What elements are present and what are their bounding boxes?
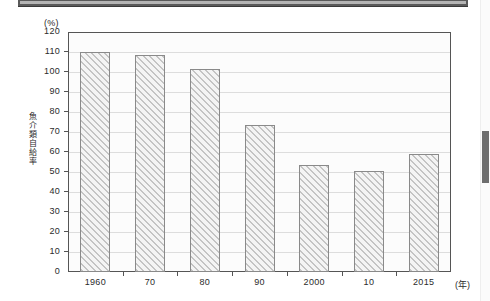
x-axis-tick-label: 1960	[68, 278, 122, 287]
y-axis-tick-label: 60	[34, 147, 60, 156]
x-axis-tick-mark	[396, 272, 397, 276]
y-axis-tick-mark	[64, 211, 68, 212]
gridline	[69, 52, 450, 53]
bar-10	[354, 171, 384, 272]
x-axis-tick-mark	[177, 272, 178, 276]
y-axis-tick-label: 20	[34, 227, 60, 236]
y-axis-tick-label: 100	[34, 67, 60, 76]
gridline	[69, 112, 450, 113]
x-axis-tick-label: 90	[233, 278, 287, 287]
bar-1960	[80, 52, 110, 272]
y-axis-tick-label: 10	[34, 247, 60, 256]
y-axis-tick-label: 110	[34, 47, 60, 56]
y-axis-tick-mark	[64, 51, 68, 52]
vertical-scrollbar[interactable]	[480, 0, 490, 301]
y-axis-tick-mark	[64, 71, 68, 72]
y-axis-tick-mark	[64, 111, 68, 112]
y-axis-tick-label: 70	[34, 127, 60, 136]
y-axis-tick-label: 30	[34, 207, 60, 216]
x-axis-tick-label: 2015	[397, 278, 451, 287]
y-axis-tick-mark	[64, 251, 68, 252]
y-axis-tick-label: 0	[34, 267, 60, 276]
y-axis-tick-mark	[64, 91, 68, 92]
bar-80	[190, 69, 220, 272]
x-axis-tick-mark	[342, 272, 343, 276]
x-axis-tick-mark	[232, 272, 233, 276]
y-axis-tick-mark	[64, 191, 68, 192]
x-axis-tick-label: 2000	[287, 278, 341, 287]
x-axis-tick-label: 80	[178, 278, 232, 287]
y-axis-tick-label: 80	[34, 107, 60, 116]
y-axis-title: 魚介類自給率	[24, 112, 36, 166]
y-axis-tick-mark	[64, 171, 68, 172]
bar-chart-figure: (%) 魚介類自給率 (年) 1201101009080706050403020…	[0, 0, 490, 301]
x-axis-tick-mark	[287, 272, 288, 276]
y-axis-tick-mark	[64, 151, 68, 152]
bar-2015	[409, 154, 439, 272]
x-axis-tick-label: 70	[123, 278, 177, 287]
x-axis-unit-label: (年)	[455, 278, 470, 291]
y-axis-tick-label: 90	[34, 87, 60, 96]
x-axis-tick-label: 10	[342, 278, 396, 287]
y-axis-tick-mark	[64, 131, 68, 132]
y-axis-tick-mark	[64, 231, 68, 232]
gridline	[69, 72, 450, 73]
y-axis-tick-label: 50	[34, 167, 60, 176]
bar-90	[245, 125, 275, 272]
y-axis-tick-label: 40	[34, 187, 60, 196]
bar-2000	[299, 165, 329, 272]
gridline	[69, 92, 450, 93]
x-axis-tick-mark	[123, 272, 124, 276]
vertical-scrollbar-thumb[interactable]	[482, 131, 489, 183]
bar-70	[135, 55, 165, 272]
y-axis-tick-label: 120	[34, 27, 60, 36]
